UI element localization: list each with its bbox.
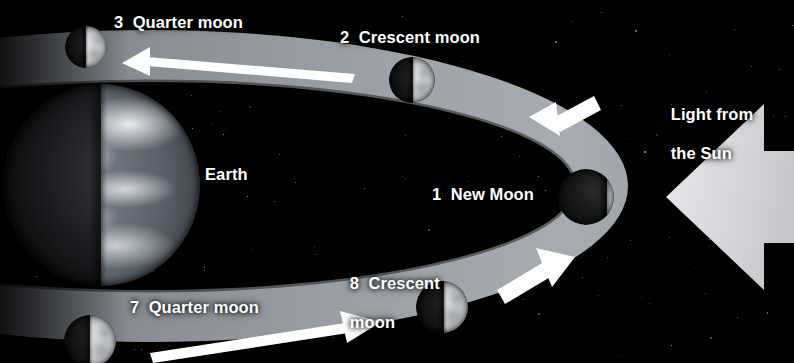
moon-body-3-quarter — [65, 26, 107, 68]
label-moon-8-line2: moon — [350, 313, 395, 331]
label-sunlight: Light from the Sun — [652, 86, 753, 183]
label-sunlight-line2: the Sun — [671, 144, 732, 162]
earth-globe — [2, 84, 200, 286]
label-earth: Earth — [205, 165, 248, 184]
moon-body-2-crescent — [389, 57, 435, 103]
label-moon-1: 1 New Moon — [432, 185, 534, 204]
label-sunlight-line1: Light from — [671, 105, 754, 123]
earth-limb-shading — [2, 84, 200, 286]
label-moon-8: 8 Crescent moon — [331, 255, 440, 352]
moon-phases-diagram: 3 Quarter moon 2 Crescent moon 1 New Moo… — [0, 0, 794, 363]
label-moon-2: 2 Crescent moon — [340, 28, 480, 47]
label-moon-7: 7 Quarter moon — [130, 298, 259, 317]
label-moon-8-line1: 8 Crescent — [350, 274, 440, 292]
label-moon-3: 3 Quarter moon — [114, 13, 243, 32]
moon-body-1-new — [558, 169, 614, 225]
moon-body-7-quarter — [64, 315, 116, 363]
